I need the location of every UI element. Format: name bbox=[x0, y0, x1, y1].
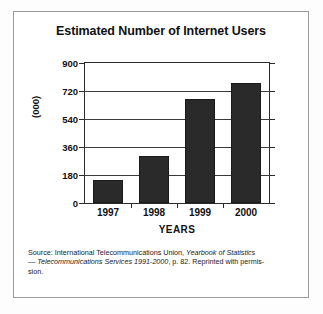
y-tick-label-900: 900 bbox=[48, 58, 78, 69]
figure-page: Estimated Number of Internet Users (000)… bbox=[0, 0, 323, 314]
x-tick-label-2000: 2000 bbox=[223, 207, 269, 218]
y-tick-label-180: 180 bbox=[48, 170, 78, 181]
source-line2-dash: — bbox=[28, 257, 37, 266]
bar-2000[interactable] bbox=[231, 83, 261, 203]
x-tick-mark-1998 bbox=[131, 204, 132, 208]
y-tick-label-720: 720 bbox=[48, 86, 78, 97]
source-line1-prefix: Source: International Telecommunications… bbox=[28, 248, 186, 257]
source-line2-suffix: , p. 82. Reprinted with permis- bbox=[168, 257, 264, 266]
source-note: Source: International Telecommunications… bbox=[28, 248, 294, 276]
y-tick-mark-right-360 bbox=[270, 147, 275, 148]
bar-1999[interactable] bbox=[185, 99, 215, 203]
y-tick-mark-right-720 bbox=[270, 91, 275, 92]
source-line3: sion. bbox=[28, 267, 43, 276]
x-tick-label-1997: 1997 bbox=[85, 207, 131, 218]
source-line2-italic: Telecommunications Services 1991-2000 bbox=[37, 257, 168, 266]
y-tick-mark-right-900 bbox=[270, 63, 275, 64]
chart-title: Estimated Number of Internet Users bbox=[13, 24, 309, 38]
x-tick-mark-2000 bbox=[223, 204, 224, 208]
y-tick-mark-right-0 bbox=[270, 203, 275, 204]
bar-slot-1997 bbox=[85, 63, 131, 203]
bar-series bbox=[85, 63, 269, 203]
bar-slot-1998 bbox=[131, 63, 177, 203]
x-tick-label-1998: 1998 bbox=[131, 207, 177, 218]
x-tick-label-1999: 1999 bbox=[177, 207, 223, 218]
y-tick-label-0: 0 bbox=[48, 198, 78, 209]
y-tick-label-540: 540 bbox=[48, 114, 78, 125]
plot-area bbox=[84, 62, 270, 204]
bar-slot-1999 bbox=[177, 63, 223, 203]
x-tick-mark-1999 bbox=[177, 204, 178, 208]
y-tick-mark-right-180 bbox=[270, 175, 275, 176]
y-tick-mark-right-540 bbox=[270, 119, 275, 120]
source-line1-italic: Yearbook of Statistics bbox=[186, 248, 255, 257]
y-axis-title: (000) bbox=[30, 96, 41, 118]
bar-slot-2000 bbox=[223, 63, 269, 203]
y-tick-label-360: 360 bbox=[48, 142, 78, 153]
x-axis-title: YEARS bbox=[84, 224, 270, 235]
bar-1997[interactable] bbox=[93, 180, 123, 203]
bar-1998[interactable] bbox=[139, 156, 169, 203]
